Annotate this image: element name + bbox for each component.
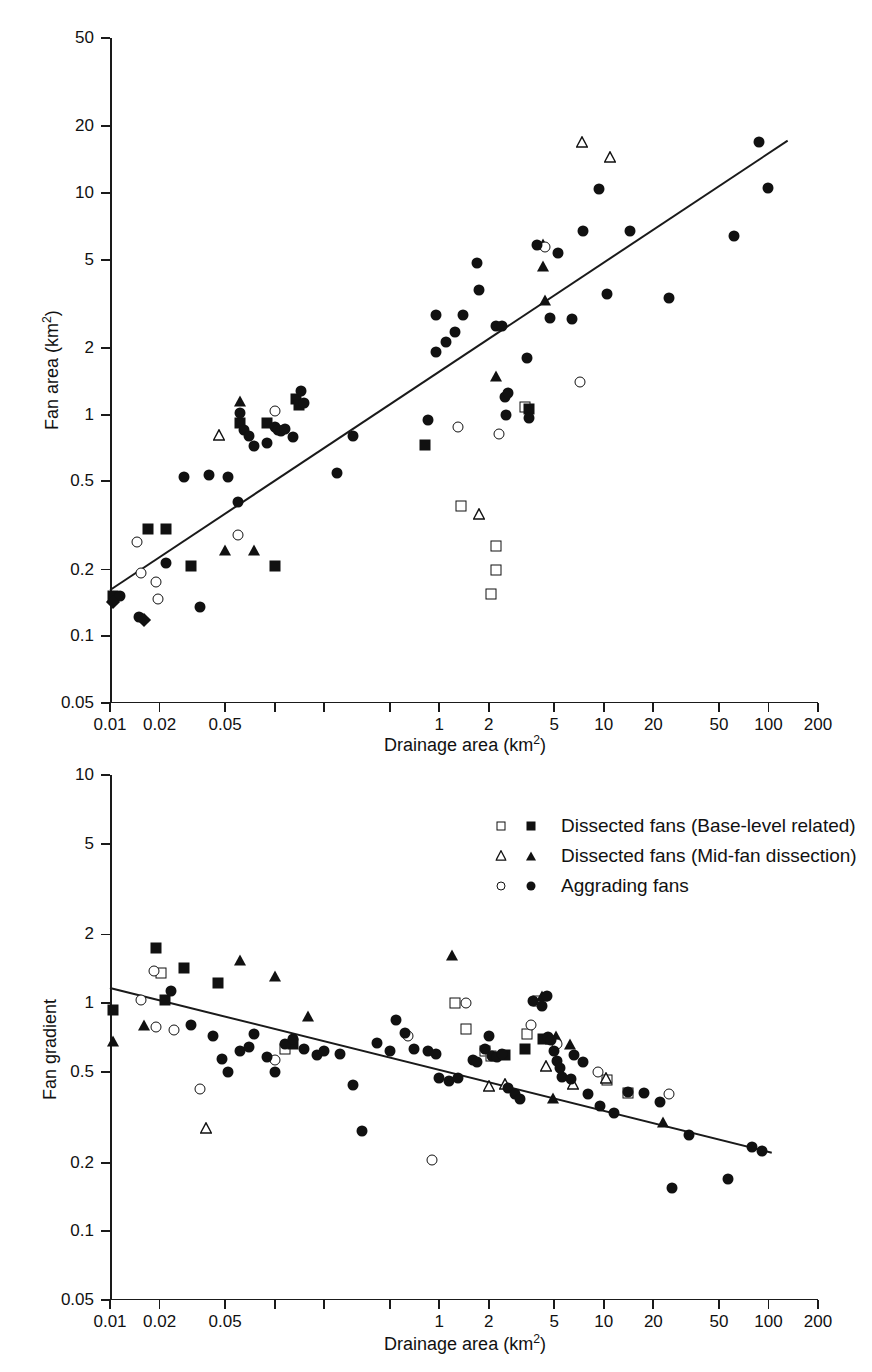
data-point-circle-filled [391,1015,402,1026]
x-axis-tick-label: 5 [550,1312,559,1332]
x-axis-tick [323,1300,325,1309]
data-point-triangle-filled [564,1039,576,1050]
y-axis-tick [101,774,110,776]
y-axis-tick-label: 10 [28,765,94,785]
data-point-triangle-filled [138,1020,150,1031]
data-point-circle-open [169,1025,180,1036]
data-point-circle-filled [288,1033,299,1044]
y-axis-tick-label: 0.2 [28,1153,94,1173]
data-point-circle-filled [166,986,177,997]
data-point-circle-filled [185,1020,196,1031]
data-point-circle-filled [608,1108,619,1119]
data-point-circle-open [194,1084,205,1095]
data-point-circle-filled [496,1048,507,1059]
data-point-circle-filled [515,1094,526,1105]
x-axis-tick [553,1300,555,1309]
data-point-square-filled [519,1043,530,1054]
x-axis-tick [603,1300,605,1309]
data-point-circle-filled [217,1053,228,1064]
legend-entry-label: Aggrading fans [561,875,689,897]
data-point-circle-filled [408,1043,419,1054]
data-point-triangle-filled [547,1092,559,1103]
y-axis-tick-label: 0.5 [28,1062,94,1082]
data-point-square-open [450,998,461,1009]
data-point-circle-filled [723,1173,734,1184]
y-axis-tick [101,1002,110,1004]
x-axis-tick [109,1300,111,1309]
x-axis-tick-label: 50 [709,1312,728,1332]
legend: Dissected fans (Base-level related)Disse… [495,812,872,902]
data-point-circle-filled [582,1088,593,1099]
x-axis-tick [438,1300,440,1309]
x-axis-tick-label: 0.02 [143,1312,176,1332]
legend-entry: Dissected fans (Base-level related) [495,812,872,840]
y-axis-tick-label: 0.05 [28,1290,94,1310]
circle-open-icon [497,882,506,891]
x-axis-tick [224,1300,226,1309]
circle-filled-icon [527,882,536,891]
y-axis-tick [101,1230,110,1232]
legend-entry: Aggrading fans [495,872,872,900]
data-point-circle-filled [595,1100,606,1111]
data-point-square-filled [178,962,189,973]
data-point-circle-filled [400,1027,411,1038]
triangle-open-icon [496,847,507,865]
data-point-triangle-filled [107,1036,119,1047]
data-point-triangle-filled [234,954,246,965]
data-point-square-filled [150,942,161,953]
x-axis-title-base: Drainage area (km [384,1334,533,1354]
y-axis-tick-label: 2 [28,924,94,944]
legend-entry: Dissected fans (Mid-fan dissection) [495,842,872,870]
x-axis-tick-label: 100 [754,1312,782,1332]
figure-root: Fan area (km2) Drainage area (km2) 0.050… [0,0,872,1372]
data-point-circle-filled [667,1182,678,1193]
x-axis-tick [817,1300,819,1309]
bottom-panel-y-axis-title: Fan gradient [40,999,61,1100]
data-point-circle-filled [546,1034,557,1045]
data-point-circle-open [460,998,471,1009]
legend-entry-label: Dissected fans (Mid-fan dissection) [561,845,857,867]
y-axis-tick-label: 5 [28,834,94,854]
data-point-square-open [460,1024,471,1035]
x-axis-tick [159,1300,161,1309]
data-point-circle-filled [298,1043,309,1054]
data-point-circle-open [426,1155,437,1166]
x-axis-title-tail: ) [540,1334,546,1354]
data-point-circle-filled [348,1079,359,1090]
data-point-circle-open [148,966,159,977]
data-point-circle-filled [269,1066,280,1077]
data-point-circle-filled [541,991,552,1002]
data-point-circle-filled [483,1030,494,1041]
bottom-panel-x-axis-title: Drainage area (km2) [384,1332,546,1355]
x-axis-tick-label: 0.05 [209,1312,242,1332]
data-point-circle-filled [622,1086,633,1097]
y-axis-tick [101,1162,110,1164]
data-point-circle-filled [207,1030,218,1041]
data-point-circle-filled [335,1048,346,1059]
data-point-circle-filled [578,1057,589,1068]
data-point-circle-open [525,1020,536,1031]
data-point-circle-filled [536,1001,547,1012]
data-point-square-filled [108,1004,119,1015]
square-open-icon [497,822,506,831]
data-point-circle-filled [244,1042,255,1053]
x-axis-tick [652,1300,654,1309]
data-point-square-filled [212,978,223,989]
data-point-circle-filled [757,1145,768,1156]
x-axis-tick [274,1300,276,1309]
data-point-circle-filled [565,1074,576,1085]
data-point-circle-filled [430,1048,441,1059]
x-axis-tick-label: 0.01 [93,1312,126,1332]
y-axis-tick-label: 0.1 [28,1221,94,1241]
data-point-triangle-filled [657,1117,669,1128]
data-point-triangle-filled [302,1010,314,1021]
data-point-triangle-filled [446,950,458,961]
data-point-circle-filled [638,1087,649,1098]
square-filled-icon [527,822,536,831]
x-axis-tick-label: 2 [484,1312,493,1332]
data-point-circle-filled [222,1066,233,1077]
data-point-circle-filled [249,1029,260,1040]
data-point-circle-filled [655,1096,666,1107]
x-axis-tick [768,1300,770,1309]
data-point-circle-open [150,1021,161,1032]
